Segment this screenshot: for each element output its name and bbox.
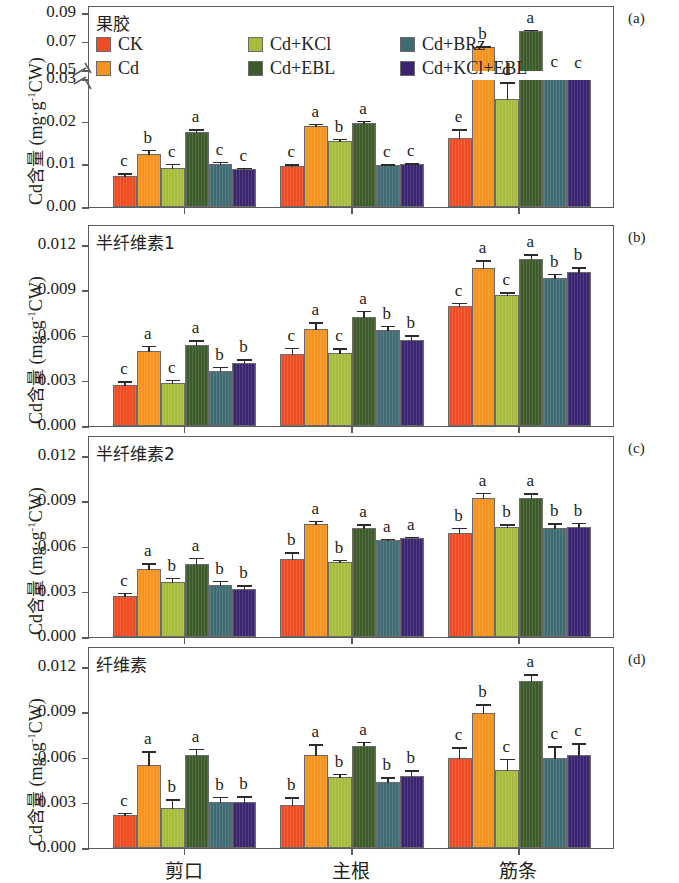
error-bar-cap	[572, 743, 586, 745]
bar	[376, 782, 400, 848]
significance-label: a	[182, 318, 210, 338]
error-bar	[148, 751, 150, 766]
error-bar	[315, 744, 317, 755]
significance-label: d	[492, 60, 520, 80]
x-tick-mark	[351, 848, 353, 855]
x-tick-mark	[518, 426, 520, 433]
error-bar	[554, 746, 556, 758]
significance-label: c	[325, 326, 353, 346]
error-bar-cap	[189, 749, 203, 751]
x-tick-mark	[184, 637, 186, 644]
error-bar-cap	[452, 129, 466, 131]
bar	[448, 306, 472, 426]
error-bar-cap	[166, 799, 180, 801]
bar	[137, 569, 161, 637]
legend-swatch-Cd	[96, 61, 111, 76]
panel-title: 果胶	[96, 10, 130, 35]
bar	[352, 528, 376, 637]
significance-label: c	[564, 721, 592, 741]
error-bar-cap	[285, 348, 299, 350]
significance-label: c	[158, 358, 186, 378]
bar	[400, 538, 424, 637]
error-bar-cap	[166, 380, 180, 382]
y-tick-mark	[82, 426, 89, 428]
significance-label: b	[277, 775, 305, 795]
axis-break-marker	[72, 61, 94, 91]
bar	[280, 354, 304, 426]
significance-label: b	[325, 538, 353, 558]
bar	[232, 589, 256, 637]
significance-label: b	[229, 774, 257, 794]
error-bar-cap	[118, 381, 132, 383]
y-tick-mark	[82, 712, 89, 714]
bar	[448, 138, 472, 207]
bar	[519, 681, 543, 848]
bar	[185, 755, 209, 848]
bar	[328, 777, 352, 848]
bar	[567, 755, 591, 848]
significance-label: a	[134, 729, 162, 749]
error-bar-cap	[237, 359, 251, 361]
error-bar-cap	[524, 30, 538, 32]
error-bar-cap	[213, 367, 227, 369]
error-bar-cap	[500, 759, 514, 761]
significance-label: b	[229, 337, 257, 357]
error-bar	[459, 129, 461, 139]
error-bar-cap	[237, 168, 251, 170]
significance-label: a	[397, 515, 425, 535]
bar	[328, 141, 352, 207]
error-bar-cap	[309, 744, 323, 746]
significance-label: b	[397, 748, 425, 768]
error-bar-cap	[213, 162, 227, 164]
error-bar-cap	[452, 303, 466, 305]
error-bar-cap	[548, 274, 562, 276]
bar	[352, 123, 376, 207]
y-tick-label: 0.012	[0, 234, 76, 254]
error-bar-cap	[381, 326, 395, 328]
y-axis-label: Cd含量 (mg·g-1CW)	[22, 698, 47, 846]
error-bar-cap	[405, 163, 419, 165]
legend-label: Cd+KCl	[270, 34, 331, 55]
significance-label: a	[134, 324, 162, 344]
significance-label: a	[182, 727, 210, 747]
bar	[495, 295, 519, 426]
y-axis-label: Cd含量 (mg·g-1CW)	[22, 276, 47, 424]
y-axis-label: Cd含量 (mg·g-1CW)	[22, 487, 47, 635]
significance-label: c	[110, 791, 138, 811]
bar	[209, 802, 233, 848]
legend-swatch-Cd-BRz	[400, 37, 415, 52]
error-bar-cap	[572, 267, 586, 269]
error-bar-cap	[476, 260, 490, 262]
error-bar-cap	[333, 348, 347, 350]
significance-label: b	[325, 117, 353, 137]
y-tick-mark	[82, 245, 89, 247]
error-bar-cap	[309, 124, 323, 126]
bar	[567, 75, 591, 207]
error-bar-cap	[189, 129, 203, 131]
error-bar-cap	[118, 813, 132, 815]
legend: CKCdCd+KClCd+EBLCd+BRzCd+KCl+EBL	[96, 34, 526, 84]
error-bar-cap	[118, 173, 132, 175]
significance-label: a	[349, 99, 377, 119]
significance-label: c	[492, 737, 520, 757]
y-tick-mark	[82, 381, 89, 383]
significance-label: a	[349, 720, 377, 740]
panel-tag: (a)	[628, 10, 645, 27]
y-tick-label: 0.012	[0, 656, 76, 676]
bar	[161, 808, 185, 848]
error-bar-cap	[524, 493, 538, 495]
error-bar	[578, 743, 580, 756]
bar	[519, 259, 543, 426]
y-tick-mark	[82, 667, 89, 669]
legend-swatch-Cd-EBL	[248, 61, 263, 76]
significance-label: c	[110, 151, 138, 171]
error-bar-cap	[142, 751, 156, 753]
error-bar-cap	[500, 292, 514, 294]
legend-item-CK: CK	[96, 34, 143, 55]
significance-label: a	[301, 722, 329, 742]
significance-label: c	[277, 326, 305, 346]
legend-item-Cd-EBL: Cd+EBL	[248, 58, 335, 79]
y-tick-mark	[82, 637, 89, 639]
legend-item-Cd: Cd	[96, 58, 139, 79]
significance-label: a	[301, 499, 329, 519]
